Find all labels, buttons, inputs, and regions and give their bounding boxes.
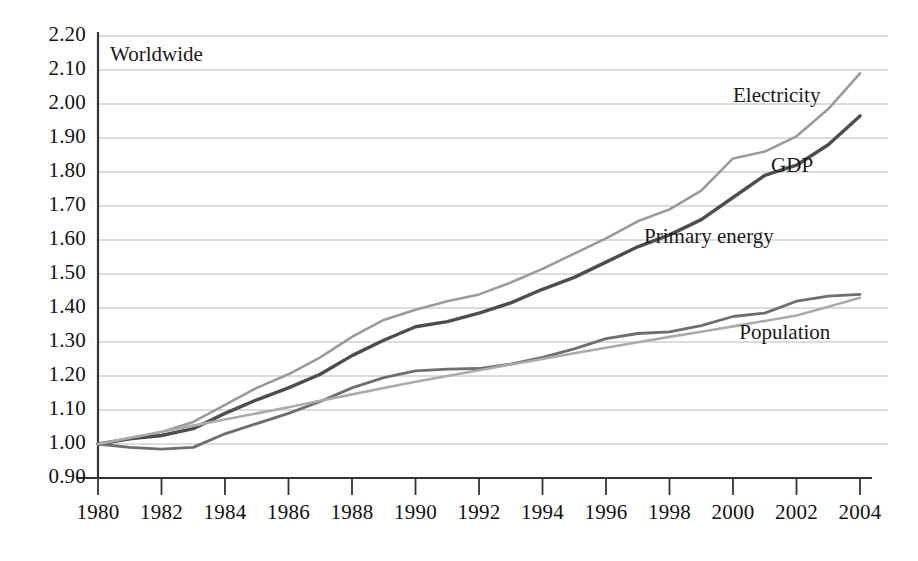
y-tick-label: 1.50 [8, 260, 86, 285]
y-tick-label: 1.00 [8, 430, 86, 455]
series-label-primary-energy: Primary energy [644, 224, 774, 249]
y-tick-label: 0.90 [8, 464, 86, 489]
series-line-gdp [98, 116, 860, 444]
y-tick-label: 1.90 [8, 124, 86, 149]
y-tick-label: 1.80 [8, 158, 86, 183]
y-tick-label: 1.40 [8, 294, 86, 319]
x-tick-label: 1988 [317, 500, 387, 525]
x-tick-label: 1982 [127, 500, 197, 525]
x-tick-label: 2000 [698, 500, 768, 525]
x-tick-label: 2002 [762, 500, 832, 525]
x-tick-label: 1994 [508, 500, 578, 525]
y-tick-label: 1.60 [8, 226, 86, 251]
x-tick-label: 2004 [825, 500, 895, 525]
x-tick-label: 1990 [381, 500, 451, 525]
x-tick-group [98, 478, 860, 495]
x-tick-label: 1986 [254, 500, 324, 525]
series-label-population: Population [739, 320, 830, 345]
series-line-electricity [98, 73, 860, 444]
series-label-electricity: Electricity [733, 83, 820, 108]
x-tick-label: 1996 [571, 500, 641, 525]
series-line-group [98, 73, 860, 449]
y-tick-label: 1.30 [8, 328, 86, 353]
y-tick-label: 2.10 [8, 56, 86, 81]
y-tick-label: 1.10 [8, 396, 86, 421]
series-label-gdp: GDP [771, 153, 813, 178]
x-tick-label: 1992 [444, 500, 514, 525]
y-tick-label: 2.20 [8, 22, 86, 47]
y-tick-label: 1.20 [8, 362, 86, 387]
x-tick-label: 1984 [190, 500, 260, 525]
y-tick-label: 2.00 [8, 90, 86, 115]
chart-figure: 0.901.001.101.201.301.401.501.601.701.80… [0, 0, 918, 561]
x-tick-label: 1980 [63, 500, 133, 525]
y-tick-label: 1.70 [8, 192, 86, 217]
series-line-primary-energy [98, 294, 860, 449]
x-tick-label: 1998 [635, 500, 705, 525]
worldwide-annotation: Worldwide [110, 42, 203, 67]
